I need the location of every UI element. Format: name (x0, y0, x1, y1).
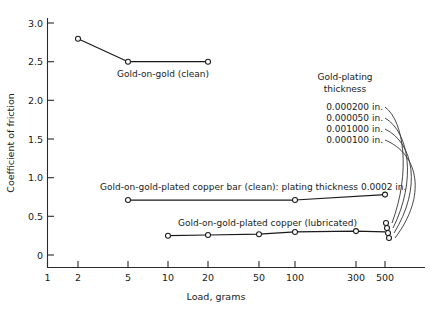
x-tick-label-5: 5 (125, 272, 131, 283)
x-tick-label-10: 10 (162, 272, 174, 283)
callout-label-2: 0.001000 in. (326, 124, 383, 134)
y-tick-label-2.0: 2.0 (28, 95, 43, 106)
y-tick-label-1.5: 1.5 (28, 134, 43, 145)
callout-endpoint-1 (385, 226, 390, 231)
series-copper-bar-clean (126, 192, 388, 202)
series-3-point (166, 233, 171, 238)
series-copper-lubricated (166, 229, 386, 239)
series-1-annotation: Gold-on-gold (clean) (117, 69, 209, 79)
callout-leader-lines (385, 107, 415, 238)
x-tick-label-1: 1 (44, 272, 50, 283)
series-1-point (76, 36, 81, 41)
series-3-point (206, 233, 211, 238)
x-tick-label-50: 50 (253, 272, 265, 283)
series-1-point (126, 59, 131, 64)
leader-line-0 (385, 107, 403, 223)
x-tick-label-300: 300 (347, 272, 365, 283)
x-tick-label-2: 2 (75, 272, 81, 283)
callout-label-3: 0.000100 in. (326, 135, 383, 145)
y-axis-tick-labels: 3.0 2.5 2.0 1.5 1.0 0.5 0 (28, 18, 43, 261)
callout-label-1: 0.000050 in. (326, 113, 383, 123)
x-axis-tick-labels: 1 2 5 10 20 50 100 300 500 (44, 272, 394, 283)
x-axis-ticks (48, 261, 386, 268)
callout-heading-line1: Gold-plating (317, 72, 372, 82)
series-3-point (354, 229, 359, 234)
callout-endpoint-3 (387, 236, 392, 241)
y-tick-label-0: 0 (37, 250, 43, 261)
series-1-line (78, 39, 208, 62)
series-3-point (257, 232, 262, 237)
series-2-point (293, 198, 298, 203)
series-1-point (206, 59, 211, 64)
series-gold-on-gold-clean (76, 36, 211, 64)
y-tick-label-0.5: 0.5 (28, 211, 43, 222)
series-2-line (128, 195, 385, 200)
series-2-annotation: Gold-on-gold-plated copper bar (clean): … (100, 182, 406, 192)
callout-heading-line2: thickness (324, 84, 367, 94)
callout-label-0: 0.000200 in. (326, 102, 383, 112)
chart-canvas: 3.0 2.5 2.0 1.5 1.0 0.5 0 Coefficient of… (0, 0, 430, 319)
callout-endpoint-2 (386, 231, 391, 236)
y-axis-ticks (48, 23, 55, 255)
series-2-point (383, 192, 388, 197)
x-tick-label-500: 500 (376, 272, 394, 283)
y-tick-label-2.5: 2.5 (28, 56, 43, 67)
series-3-line (168, 231, 385, 236)
series-2-point (126, 198, 131, 203)
series-3-annotation: Gold-on-gold-plated copper (lubricated) (178, 218, 357, 228)
y-tick-label-3.0: 3.0 (28, 18, 43, 29)
friction-load-chart: 3.0 2.5 2.0 1.5 1.0 0.5 0 Coefficient of… (0, 0, 430, 319)
callout-endpoint-markers (384, 221, 392, 241)
x-axis-title: Load, grams (187, 291, 246, 302)
series-3-point (293, 229, 298, 234)
y-tick-label-1.0: 1.0 (28, 172, 43, 183)
callout-endpoint-0 (384, 221, 389, 226)
x-tick-label-100: 100 (286, 272, 304, 283)
y-axis-title: Coefficient of friction (5, 93, 16, 192)
x-tick-label-20: 20 (202, 272, 214, 283)
